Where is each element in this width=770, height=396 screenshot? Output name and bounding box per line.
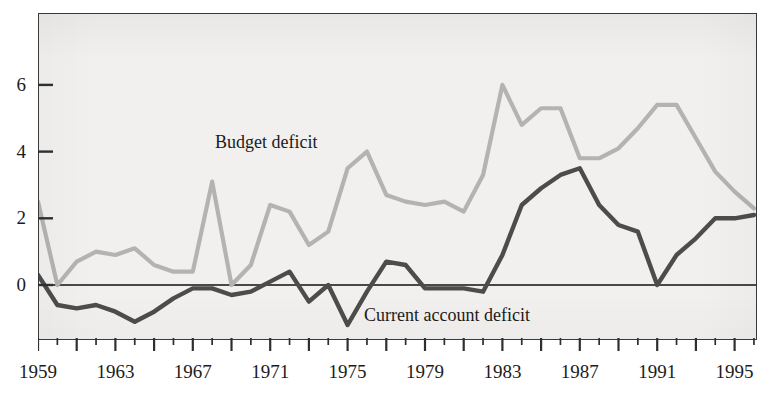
x-axis-label-1963: 1963: [85, 362, 145, 381]
x-axis-label-1967: 1967: [163, 362, 223, 381]
series-label-budget-deficit: Budget deficit: [215, 132, 317, 152]
x-axis-ticks: [38, 338, 759, 354]
top-caption-fragment: [150, 0, 570, 11]
x-axis-label-1991: 1991: [627, 362, 687, 381]
y-axis-label-6: 6: [0, 75, 26, 94]
y-axis-ticks: [30, 13, 58, 340]
y-axis-label-4: 4: [0, 142, 26, 161]
x-axis-label-1975: 1975: [318, 362, 378, 381]
plot-inner: [39, 14, 756, 339]
y-axis-label-0: 0: [0, 275, 26, 294]
plot-area: [38, 13, 757, 340]
x-axis-label-1983: 1983: [472, 362, 532, 381]
x-axis-label-1995: 1995: [705, 362, 765, 381]
chart-figure: 0246 19591963196719711975197919831987199…: [0, 0, 770, 396]
x-axis-label-1971: 1971: [240, 362, 300, 381]
x-axis-label-1979: 1979: [395, 362, 455, 381]
x-axis-label-1959: 1959: [8, 362, 68, 381]
chart-canvas: [39, 14, 756, 339]
series-lines: [39, 85, 754, 325]
series-label-current-account-deficit: Current account deficit: [364, 305, 530, 325]
y-axis-label-2: 2: [0, 208, 26, 227]
x-axis-label-1987: 1987: [550, 362, 610, 381]
